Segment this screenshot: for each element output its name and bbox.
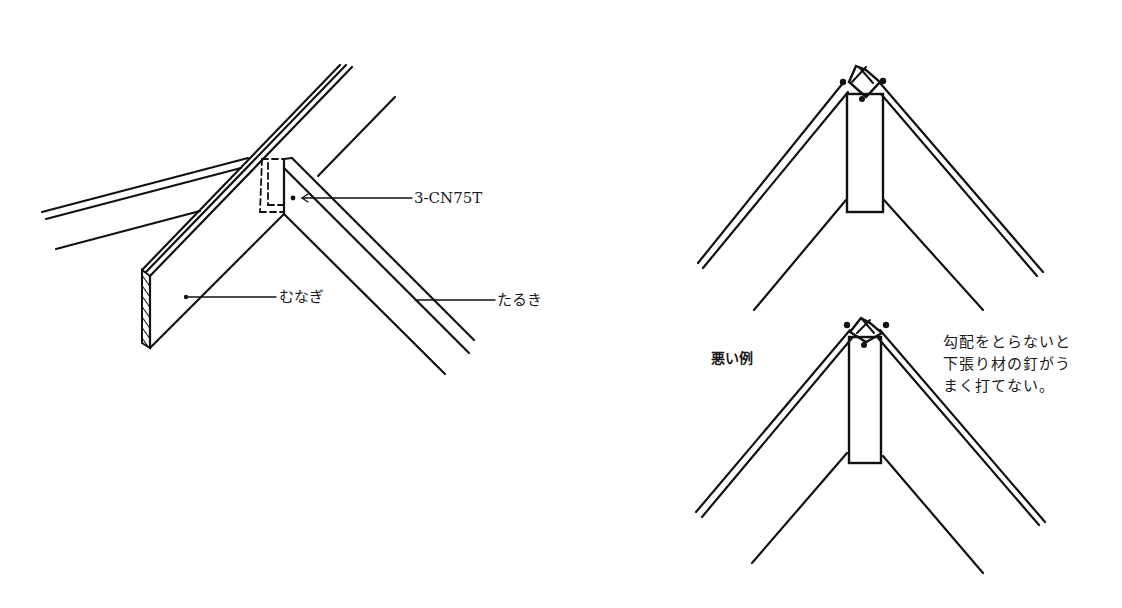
ridge-beam-end-grain	[142, 270, 150, 348]
note-line-3: まく打てない。	[943, 375, 1071, 397]
back-rafter-right	[318, 97, 395, 176]
bad-example-note: 勾配をとらないと 下張り材の釘がう まく打てない。	[943, 331, 1071, 397]
ridge-beam-label: むなぎ	[279, 288, 324, 306]
note-line-1: 勾配をとらないと	[943, 331, 1071, 353]
back-rafter-left	[42, 158, 248, 249]
hidden-rafter-dashed	[260, 159, 284, 212]
rafter-label: たるき	[497, 291, 542, 309]
diagram-canvas	[0, 0, 1122, 608]
note-line-2: 下張り材の釘がう	[943, 353, 1071, 375]
left-ridge-assembly	[42, 65, 495, 374]
good-example-ridge	[698, 66, 1043, 310]
ridge-beam-face	[150, 214, 284, 348]
nail-point	[291, 196, 296, 201]
nail-spec-label: 3-CN75T	[414, 189, 482, 207]
ridge-beam-top-edges	[142, 65, 352, 276]
bad-example-label: 悪い例	[711, 349, 753, 367]
